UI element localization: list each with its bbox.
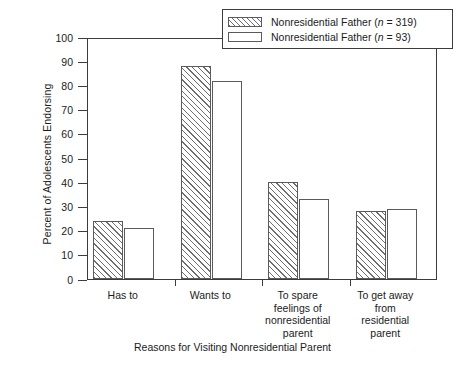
x-category-label-3: To get awayfromresidentialparent <box>342 289 430 339</box>
x-tick-mark <box>350 280 351 286</box>
x-axis-title: Reasons for Visiting Nonresidential Pare… <box>0 341 465 353</box>
plot-area <box>87 38 437 280</box>
bar-group-2-series-0 <box>268 182 298 279</box>
y-tick-label: 50 <box>33 159 73 160</box>
x-category-label-0: Has to <box>79 289 167 302</box>
y-tick-mark <box>78 231 87 232</box>
chart-figure: Percent of Adolescents Endorsing 0102030… <box>0 0 465 365</box>
y-tick-mark <box>78 62 87 63</box>
x-category-line: Wants to <box>167 289 255 302</box>
legend-item-1: Nonresidential Father (n = 93) <box>228 29 446 44</box>
legend-item-0: Nonresidential Father (n = 319) <box>228 14 446 29</box>
y-tick-mark <box>78 110 87 111</box>
x-category-line: To spare <box>254 289 342 302</box>
x-tick-mark <box>175 280 176 286</box>
y-tick-mark <box>78 207 87 208</box>
x-category-line: from <box>342 302 430 315</box>
y-tick-label: 0 <box>33 280 73 281</box>
bar-group-3-series-0 <box>356 211 386 279</box>
x-category-label-2: To sparefeelings ofnonresidentialparent <box>254 289 342 339</box>
x-category-line: nonresidential <box>254 314 342 327</box>
x-category-line: feelings of <box>254 302 342 315</box>
x-category-line: Has to <box>79 289 167 302</box>
y-tick-mark <box>78 134 87 135</box>
bar-group-1-series-0 <box>181 66 211 279</box>
y-axis-title: Percent of Adolescents Endorsing <box>41 39 53 289</box>
y-tick-mark <box>78 159 87 160</box>
y-tick-label: 80 <box>33 86 73 87</box>
bar-group-2-series-1 <box>299 199 329 279</box>
y-tick-mark <box>78 86 87 87</box>
bar-group-1-series-1 <box>212 81 242 279</box>
y-tick-label: 20 <box>33 231 73 232</box>
y-tick-mark <box>78 38 87 39</box>
y-tick-label: 100 <box>33 38 73 39</box>
y-tick-label: 90 <box>33 62 73 63</box>
y-tick-label: 10 <box>33 255 73 256</box>
legend-label-1: Nonresidential Father (n = 93) <box>271 31 411 43</box>
bar-group-3-series-1 <box>387 209 417 279</box>
x-category-label-1: Wants to <box>167 289 255 302</box>
x-category-line: parent <box>342 327 430 340</box>
bar-group-0-series-0 <box>93 221 123 279</box>
bar-group-0-series-1 <box>124 228 154 279</box>
y-tick-label: 70 <box>33 110 73 111</box>
y-tick-label: 30 <box>33 207 73 208</box>
y-tick-label: 40 <box>33 183 73 184</box>
legend-label-0: Nonresidential Father (n = 319) <box>271 16 417 28</box>
x-category-line: To get away <box>342 289 430 302</box>
chart-legend: Nonresidential Father (n = 319) Nonresid… <box>222 9 453 49</box>
y-tick-mark <box>78 183 87 184</box>
legend-swatch-hatched-icon <box>228 17 262 27</box>
legend-swatch-plain-icon <box>228 32 262 42</box>
x-category-line: residential <box>342 314 430 327</box>
y-tick-mark <box>78 255 87 256</box>
x-category-line: parent <box>254 327 342 340</box>
y-tick-mark <box>78 280 87 281</box>
x-tick-mark <box>262 280 263 286</box>
y-tick-label: 60 <box>33 134 73 135</box>
